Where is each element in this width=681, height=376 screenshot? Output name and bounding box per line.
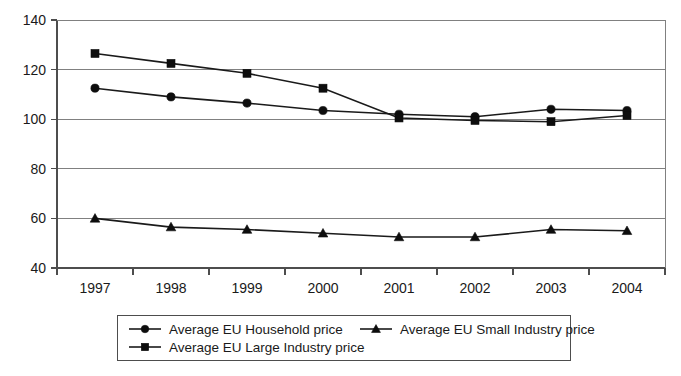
circle-marker — [141, 325, 149, 333]
x-tick-label: 1999 — [231, 280, 262, 296]
x-tick-label: 2000 — [307, 280, 338, 296]
y-tick-label: 40 — [30, 260, 46, 276]
y-axis-ticks — [51, 20, 57, 268]
square-marker — [243, 69, 251, 77]
x-tick-label: 2002 — [459, 280, 490, 296]
y-axis-labels: 406080100120140 — [23, 12, 47, 276]
y-tick-label: 140 — [23, 12, 47, 28]
data-series — [90, 49, 632, 240]
chart-canvas: 406080100120140 199719981999200020012002… — [0, 0, 681, 376]
line-chart: 406080100120140 199719981999200020012002… — [0, 0, 681, 376]
circle-marker — [167, 93, 175, 101]
y-tick-label: 80 — [30, 161, 46, 177]
legend-item-label: Average EU Large Industry price — [169, 340, 365, 355]
circle-marker — [91, 84, 99, 92]
legend-item-label: Average EU Small Industry price — [400, 322, 595, 337]
square-marker — [471, 116, 479, 124]
x-tick-label: 2001 — [383, 280, 414, 296]
triangle-marker — [90, 214, 100, 223]
x-axis-ticks — [57, 268, 665, 275]
y-tick-label: 100 — [23, 111, 47, 127]
y-tick-label: 120 — [23, 62, 47, 78]
square-marker — [547, 118, 555, 126]
x-axis-labels: 19971998199920002001200220032004 — [79, 280, 642, 296]
series-2 — [90, 214, 632, 241]
x-tick-label: 1998 — [155, 280, 186, 296]
square-marker — [623, 111, 631, 119]
chart-legend: Average EU Household priceAverage EU Sma… — [117, 315, 595, 360]
square-marker — [91, 49, 99, 57]
axis-lines — [57, 20, 665, 268]
circle-marker — [319, 106, 327, 114]
circle-marker — [547, 105, 555, 113]
gridlines — [57, 20, 665, 268]
y-tick-label: 60 — [30, 210, 46, 226]
legend-item-3[interactable]: Average EU Large Industry price — [129, 340, 365, 355]
x-tick-label: 2004 — [611, 280, 642, 296]
legend-item-1[interactable]: Average EU Household price — [129, 322, 343, 337]
circle-marker — [243, 99, 251, 107]
x-tick-label: 2003 — [535, 280, 566, 296]
series-3 — [91, 49, 631, 125]
legend-item-label: Average EU Household price — [169, 322, 343, 337]
square-marker — [319, 84, 327, 92]
series-line — [95, 218, 627, 237]
legend-item-2[interactable]: Average EU Small Industry price — [360, 322, 595, 337]
square-marker — [395, 114, 403, 122]
square-marker — [141, 343, 148, 350]
x-tick-label: 1997 — [79, 280, 110, 296]
square-marker — [167, 59, 175, 67]
